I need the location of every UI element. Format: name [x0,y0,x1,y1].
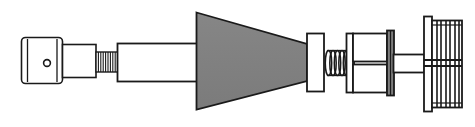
part-connecting-shaft [394,55,425,73]
end-cap-bore-hole-icon [44,60,51,67]
part-cone-flange [307,34,324,92]
bobbin-upper-chamber [353,34,387,62]
bobbin-lower-chamber [353,65,387,93]
main-shaft-body [118,44,198,82]
part-threaded-section [96,52,118,72]
connecting-shaft-body [394,55,425,73]
shaft-assembly-diagram [0,0,475,127]
part-end-cap [22,38,63,84]
cone-flange-plate [307,34,324,92]
part-pulley [424,17,462,112]
part-hub-collar [63,45,97,78]
bobbin-left-flange [347,34,354,93]
hub-collar-body [63,45,97,78]
part-main-shaft [118,44,198,82]
pulley-hub-plate [424,17,432,112]
technical-drawing-figure: Mechanical shaft assembly cross-section … [0,0,475,127]
